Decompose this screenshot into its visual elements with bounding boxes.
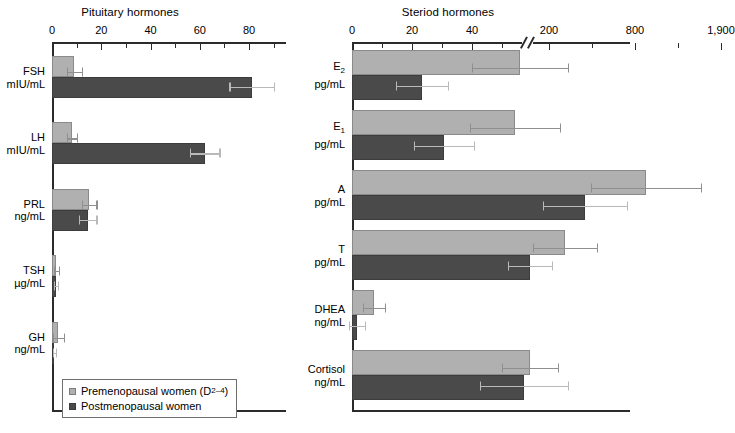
bar-postmenopausal — [52, 77, 252, 98]
category-label: E1pg/mL — [314, 120, 345, 150]
error-bar-cap — [96, 200, 97, 209]
category-name: Cortisol — [308, 363, 345, 376]
panel-left-plot-area: FSHmIU/mLLHmIU/mLPRLng/mLTSHµg/mLGHng/mL — [0, 0, 300, 433]
error-bar-cap — [385, 304, 386, 313]
error-bar — [363, 308, 385, 309]
legend-swatch-postmenopausal — [69, 403, 76, 410]
error-bar-cap — [53, 333, 54, 342]
category-label: PRLng/mL — [14, 197, 45, 222]
error-bar-cap — [508, 262, 509, 271]
error-bar — [82, 205, 97, 206]
axis-tick — [678, 43, 679, 48]
error-bar-cap — [64, 333, 65, 342]
error-bar — [480, 386, 568, 387]
error-bar-cap — [558, 364, 559, 373]
category-label: Apg/mL — [314, 183, 345, 208]
error-bar — [349, 326, 365, 327]
error-bar-cap — [533, 244, 534, 253]
legend-item-premenopausal: Premenopausal women (D2–4) — [69, 384, 228, 398]
category-label: Tpg/mL — [314, 243, 345, 268]
category-name: TSH — [14, 264, 45, 277]
bar-postmenopausal — [352, 75, 422, 100]
error-bar-cap — [480, 382, 481, 391]
error-bar-cap — [67, 68, 68, 77]
category-unit: ng/mL — [314, 315, 345, 328]
error-bar-cap — [597, 244, 598, 253]
error-bar — [53, 338, 64, 339]
error-bar-cap — [229, 83, 230, 92]
error-bar-cap — [543, 202, 544, 211]
category-unit: pg/mL — [314, 138, 345, 151]
error-bar-cap — [190, 149, 191, 158]
category-unit: ng/mL — [14, 343, 45, 356]
error-bar — [591, 188, 701, 189]
category-unit: pg/mL — [314, 255, 345, 268]
bar-premenopausal — [52, 56, 74, 77]
error-bar-cap — [53, 348, 54, 357]
error-bar-cap — [568, 64, 569, 73]
legend-label-premenopausal-tail: ) — [225, 384, 229, 398]
bar-postmenopausal — [352, 195, 585, 220]
error-bar-cap — [472, 64, 473, 73]
error-bar — [414, 146, 474, 147]
category-unit: pg/mL — [314, 78, 345, 91]
error-bar-cap — [58, 282, 59, 291]
bar-postmenopausal — [352, 315, 357, 340]
error-bar-cap — [67, 134, 68, 143]
category-name: LH — [7, 131, 46, 144]
bar-premenopausal — [352, 350, 530, 375]
error-bar-cap — [77, 134, 78, 143]
category-name: T — [314, 243, 345, 256]
error-bar-cap — [363, 304, 364, 313]
category-label: GHng/mL — [14, 330, 45, 355]
category-name: DHEA — [314, 303, 345, 316]
error-bar — [67, 72, 82, 73]
error-bar — [229, 87, 273, 88]
category-label: FSHmIU/mL — [7, 65, 46, 90]
category-label: Cortisolng/mL — [308, 363, 345, 388]
category-name: E1 — [314, 120, 345, 138]
axis-tick-label: 1,900 — [707, 24, 735, 36]
error-bar — [470, 128, 560, 129]
legend-label-premenopausal-head: Premenopausal women (D — [81, 384, 211, 398]
error-bar-cap — [59, 267, 60, 276]
category-label: TSHµg/mL — [14, 264, 45, 289]
bar-premenopausal — [52, 122, 72, 143]
axis-tick — [721, 43, 722, 50]
error-bar — [67, 138, 77, 139]
category-unit: ng/mL — [14, 210, 45, 223]
error-bar-cap — [470, 124, 471, 133]
error-bar — [79, 220, 96, 221]
error-bar — [396, 86, 448, 87]
error-bar-cap — [79, 215, 80, 224]
error-bar — [543, 206, 627, 207]
error-bar-cap — [365, 322, 366, 331]
error-bar-cap — [274, 83, 275, 92]
bar-postmenopausal — [352, 255, 530, 280]
error-bar-cap — [591, 184, 592, 193]
bar-postmenopausal — [352, 375, 524, 400]
category-name: FSH — [7, 65, 46, 78]
category-label: LHmIU/mL — [7, 131, 46, 156]
category-unit: mIU/mL — [7, 143, 46, 156]
category-unit: ng/mL — [308, 375, 345, 388]
category-name: E2 — [314, 60, 345, 78]
error-bar — [533, 248, 597, 249]
error-bar — [472, 68, 568, 69]
bar-postmenopausal — [352, 135, 444, 160]
legend-label-premenopausal-sub: 2–4 — [211, 384, 224, 398]
bar-premenopausal — [352, 50, 520, 75]
error-bar-cap — [396, 82, 397, 91]
error-bar-cap — [349, 322, 350, 331]
error-bar-cap — [414, 142, 415, 151]
error-bar-cap — [552, 262, 553, 271]
category-name: GH — [14, 330, 45, 343]
legend-swatch-premenopausal — [69, 388, 76, 395]
category-unit: pg/mL — [314, 195, 345, 208]
error-bar-cap — [560, 124, 561, 133]
bar-premenopausal — [52, 189, 89, 210]
panel-right-plot-area: E2pg/mLE1pg/mLApg/mLTpg/mLDHEAng/mLCorti… — [300, 0, 636, 433]
error-bar — [190, 153, 220, 154]
error-bar-cap — [502, 364, 503, 373]
